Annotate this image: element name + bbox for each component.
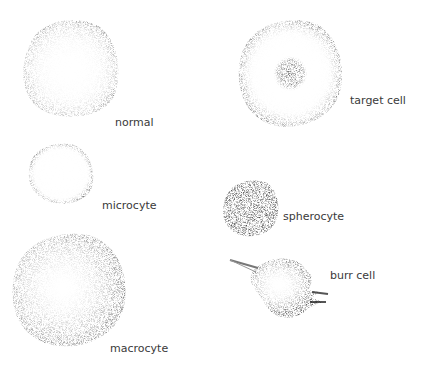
target-cell-label: target cell — [350, 94, 406, 107]
macrocyte-label: macrocyte — [110, 342, 168, 355]
normal-label: normal — [115, 116, 154, 129]
microcyte-label: microcyte — [102, 199, 156, 212]
figure-caption-partial — [70, 0, 390, 4]
spherocyte-illustration — [221, 177, 281, 239]
normal-cell-illustration — [18, 14, 122, 120]
microcyte-illustration — [26, 141, 96, 207]
macrocyte-illustration — [6, 229, 130, 351]
target-cell-illustration — [231, 16, 345, 130]
spherocyte-label: spherocyte — [283, 210, 344, 223]
burr-cell-illustration — [228, 254, 332, 320]
burr-cell-label: burr cell — [330, 269, 375, 282]
